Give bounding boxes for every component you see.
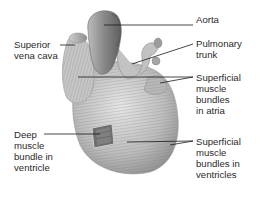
left-atrium [144, 77, 166, 95]
heart-diagram: Aorta Pulmonary trunk Superficial muscle… [0, 0, 260, 197]
superficial-atria-label: Superficial muscle bundles in atria [196, 72, 241, 116]
aorta-label: Aorta [196, 14, 219, 25]
pulmonary-trunk-label: Pulmonary trunk [196, 38, 242, 60]
deep-ventricle-label: Deep muscle bundle in ventricle [14, 129, 53, 173]
deep-muscle-window [92, 124, 114, 148]
superior-vena-cava-vessel [69, 33, 87, 43]
superior-vena-cava-label: Superior vena cava [14, 39, 58, 61]
pulmonary-trunk-leader-line [132, 44, 193, 64]
superficial-ventricles-label: Superficial muscle bundles in ventricles [196, 136, 241, 180]
